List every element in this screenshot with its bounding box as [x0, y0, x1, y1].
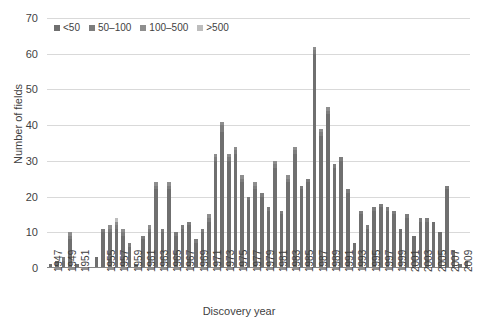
y-tick-label: 0 — [8, 263, 38, 273]
x-tick-label: 1957 — [120, 250, 130, 272]
x-tick-label: 1999 — [398, 250, 408, 272]
x-tick-label: 1961 — [147, 250, 157, 272]
x-tick-label: 1967 — [186, 250, 196, 272]
x-tick-label: 1955 — [107, 250, 117, 272]
x-tick-label: 2001 — [411, 250, 421, 272]
gridline — [47, 161, 470, 162]
x-tick-label: 1993 — [358, 250, 368, 272]
x-axis-title: Discovery year — [0, 305, 478, 317]
gridline — [47, 89, 470, 90]
x-tick-label: 1987 — [319, 250, 329, 272]
y-tick-label: 60 — [8, 49, 38, 59]
bar-segment — [313, 54, 317, 268]
bar-segment — [326, 114, 330, 268]
y-tick-label: 40 — [8, 120, 38, 130]
gridline — [47, 197, 470, 198]
x-tick-label: 1997 — [385, 250, 395, 272]
x-tick-label: 1989 — [332, 250, 342, 272]
x-tick-label: 1995 — [372, 250, 382, 272]
gridline — [47, 18, 470, 19]
gridline — [47, 125, 470, 126]
x-tick-label: 1983 — [292, 250, 302, 272]
x-tick-label: 1975 — [239, 250, 249, 272]
y-tick-label: 50 — [8, 84, 38, 94]
x-tick-label: 2007 — [451, 250, 461, 272]
bar — [220, 122, 224, 268]
plot-area — [47, 18, 470, 268]
x-tick-label: 1959 — [134, 250, 144, 272]
x-tick-label: 1947 — [54, 250, 64, 272]
bar-segment — [220, 125, 224, 132]
x-tick-label: 1981 — [279, 250, 289, 272]
x-tick-label: 1985 — [305, 250, 315, 272]
bar — [319, 129, 323, 268]
x-tick-label: 1965 — [173, 250, 183, 272]
x-tick-label: 1971 — [213, 250, 223, 272]
x-tick-label: 1963 — [160, 250, 170, 272]
bar — [101, 229, 105, 268]
x-tick-label: 1973 — [226, 250, 236, 272]
x-tick-label: 1977 — [253, 250, 263, 272]
gridline — [47, 54, 470, 55]
y-tick-label: 10 — [8, 227, 38, 237]
x-tick-label: 2003 — [424, 250, 434, 272]
bar-segment — [101, 232, 105, 268]
bar-segment — [319, 136, 323, 268]
y-tick-label: 70 — [8, 13, 38, 23]
x-tick-label: 1969 — [200, 250, 210, 272]
bar — [326, 107, 330, 268]
bar — [313, 47, 317, 268]
x-tick-label: 1979 — [266, 250, 276, 272]
bar-segment — [220, 132, 224, 268]
x-tick-label: 1951 — [81, 250, 91, 272]
x-tick-label: 1949 — [68, 250, 78, 272]
x-tick-label: 2009 — [464, 250, 474, 272]
x-tick-label: 1991 — [345, 250, 355, 272]
y-tick-label: 20 — [8, 192, 38, 202]
y-tick-label: 30 — [8, 156, 38, 166]
x-tick-label: 2005 — [438, 250, 448, 272]
discovery-year-bar-chart: Number of fields 010203040506070 <5050–1… — [0, 0, 478, 324]
